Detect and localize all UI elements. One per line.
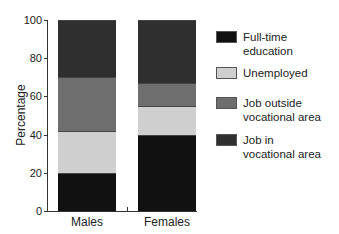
bar-segment-unemployed xyxy=(58,131,116,173)
x-axis-line xyxy=(47,211,197,212)
x-label-males: Males xyxy=(52,215,122,229)
legend-label-line: Full-time education xyxy=(243,30,339,58)
x-label-females: Females xyxy=(132,215,202,229)
legend-label: Unemployed xyxy=(243,66,339,80)
bar-segment-unemployed xyxy=(138,106,196,135)
y-tick-label: 0 xyxy=(14,205,42,217)
legend-label-line: vocational area xyxy=(243,147,339,161)
y-tick xyxy=(44,173,48,174)
bar-segment-full-time-education xyxy=(138,135,196,211)
legend-label: Full-time education xyxy=(243,30,339,58)
legend-label-line: Unemployed xyxy=(243,66,339,80)
bar-segment-job-outside-vocational-area xyxy=(138,83,196,106)
legend-label-line: Job in xyxy=(243,133,339,147)
y-tick xyxy=(44,20,48,21)
y-axis-line xyxy=(47,20,48,211)
y-tick-label: 100 xyxy=(14,14,42,26)
bar-males xyxy=(58,20,116,211)
legend-swatch xyxy=(216,31,237,43)
legend-swatch xyxy=(216,97,237,109)
y-tick xyxy=(44,96,48,97)
bar-segment-job-in-vocational-area xyxy=(138,20,196,83)
legend-swatch xyxy=(216,134,237,146)
y-tick xyxy=(44,211,48,212)
legend-label-line: vocational area xyxy=(243,110,339,124)
legend-swatch xyxy=(216,67,237,79)
y-tick xyxy=(44,58,48,59)
y-tick xyxy=(44,135,48,136)
y-tick-label: 80 xyxy=(14,52,42,64)
legend-label-line: Job outside xyxy=(243,96,339,110)
bar-females xyxy=(138,20,196,211)
bar-segment-job-outside-vocational-area xyxy=(58,77,116,130)
legend-label: Job invocational area xyxy=(243,133,339,161)
x-axis-tick xyxy=(127,207,128,211)
y-tick-label: 40 xyxy=(14,129,42,141)
legend-label: Job outsidevocational area xyxy=(243,96,339,124)
bar-segment-job-in-vocational-area xyxy=(58,20,116,77)
y-tick-label: 60 xyxy=(14,90,42,102)
bar-segment-full-time-education xyxy=(58,173,116,211)
y-tick-label: 20 xyxy=(14,167,42,179)
